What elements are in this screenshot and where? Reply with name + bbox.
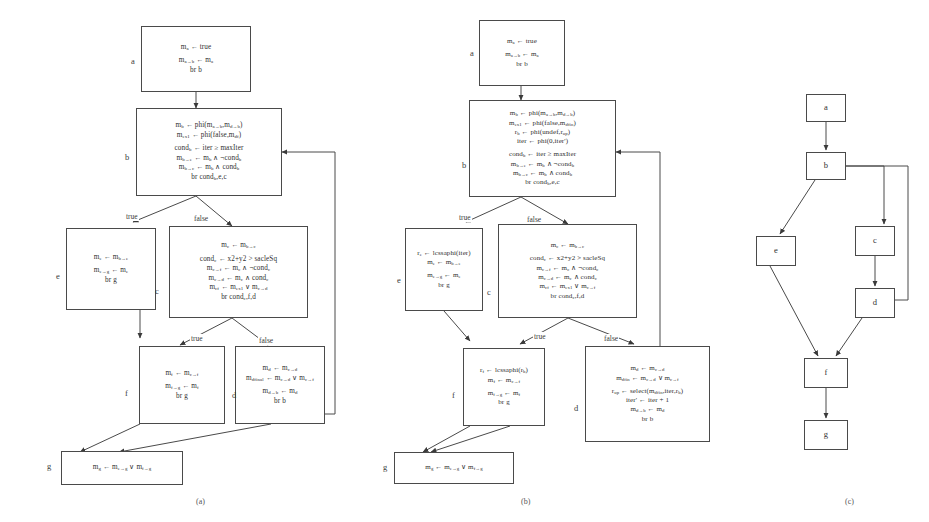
instruction-line: mdfin ← mc→d ∨ mc→f [616,374,679,383]
figure-caption: (b) [521,497,530,506]
instruction-line: me→g ← me [427,271,461,280]
block-b[interactable]: mb ← phi(ma→b,md→b)mex1 ← phi(false,mdf)… [136,108,282,196]
block-label-a: a [470,48,474,58]
cfg-node-d[interactable]: d [855,288,895,318]
block-label-b: b [125,152,129,162]
block-f[interactable]: mf ← mc→fmf→g ← mfbr g [139,346,225,424]
block-c[interactable]: mc ← mb→ccondc ← x2+y2 > sacleSqmc→f ← m… [169,226,308,318]
instruction-line: condb ← iter ≥ maxIter [509,150,576,159]
edge-label-false: false [193,214,209,223]
edge-label-true: true [125,212,139,221]
instruction-line: me→g ← me [94,266,129,276]
block-f[interactable]: rf ← lcssaphi(rb)mf ← mc→fmf→g ← mfbr g [463,348,545,426]
block-label-g: g [383,462,387,472]
block-label-b: b [462,160,466,170]
instruction-line: mdfinal ← mc→d ∨ mc→f [246,374,314,384]
instruction-line: br g [498,398,509,407]
instruction-line: md ← mc→d [263,364,298,374]
instruction-line: br condb,e,c [525,178,560,187]
cfg-node-label: f [825,367,828,378]
instruction-line: mb→e ← mb ∧ ¬condb [177,154,242,164]
instruction-line: condc ← x2+y2 > sacleSq [200,255,277,265]
block-label-e: e [56,271,60,281]
block-label-d: d [574,403,578,413]
instruction-line: br condb,e,c [191,173,226,183]
instruction-line: br g [105,276,117,286]
block-label-f: f [125,388,128,398]
cfg-node-label: d [873,297,877,308]
instruction-line: mf→g ← mf [488,389,521,398]
instruction-line: iter ← phi(0,iter') [517,137,568,146]
cfg-node-g[interactable]: g [804,420,848,450]
instruction-line: mb ← phi(ma→b,md→b) [176,121,243,131]
block-label-g: g [47,461,51,471]
instruction-line: mc ← mb→c [221,241,256,251]
instruction-line: br g [176,392,188,402]
block-e[interactable]: re ← lcssaphi(iter)me ← mb→eme→g ← mebr … [405,228,483,311]
figure-caption: (c) [845,497,854,506]
block-label-d: d [232,390,236,400]
instruction-line: ma→b ← ma [179,56,214,66]
edge-label-false: false [258,336,274,345]
instruction-line: ma ← true [181,43,212,53]
block-d[interactable]: md ← mc→dmdfin ← mc→d ∨ mc→frup ← select… [585,346,710,442]
instruction-line: mcf ← mex1 ∨ mc→f [539,282,595,291]
edge-label-true: true [533,332,547,341]
instruction-line: me ← mb→e [427,258,461,267]
block-label-f: f [452,390,455,400]
instruction-line: mex1 ← phi(false,mdf) [177,131,242,141]
edge-label-false: false [603,334,619,343]
cfg-node-b[interactable]: b [806,152,846,180]
cfg-node-label: g [824,429,828,440]
instruction-line: mf ← mc→f [165,369,198,379]
instruction-line: re ← lcssaphi(iter) [417,249,470,258]
instruction-line: br g [438,281,449,290]
instruction-line: ma→b ← ma [505,50,539,59]
edge-label-true: true [190,334,204,343]
cfg-node-label: a [824,102,828,113]
instruction-line: mb ← phi(ma→b,md→b) [510,109,575,118]
instruction-line: br b [190,66,202,76]
instruction-line: mc→d ← mc ∧ condc [208,274,268,284]
instruction-line: mg ← me→g ∨ mf→g [93,463,152,473]
figure-caption: (a) [196,497,205,506]
instruction-line: mg ← me→g ∨ mf→g [425,463,482,472]
cfg-node-f[interactable]: f [804,358,848,388]
edge-label-false: false [526,215,542,224]
cfg-node-e[interactable]: e [756,236,796,266]
block-b[interactable]: mb ← phi(ma→b,md→b)mex1 ← phi(false,mdfi… [469,100,616,197]
block-a[interactable]: ma ← truema→b ← mabr b [479,20,565,86]
instruction-line: rup ← select(mdfin,iter,rb) [612,387,683,396]
instruction-line: br b [516,60,527,69]
block-a[interactable]: ma ← truema→b ← mabr b [141,26,251,92]
block-d[interactable]: md ← mc→dmdfinal ← mc→d ∨ mc→fmd→b ← mdb… [235,346,325,424]
instruction-line: iter' ← iter + 1 [626,396,669,405]
instruction-line: mf ← mc→f [488,376,520,385]
instruction-line: condc ← x2+y2 > sacleSq [530,254,605,263]
instruction-line: rb ← phi(undef,rup) [515,128,571,137]
instruction-line: mc ← mb→c [551,241,585,250]
cfg-node-a[interactable]: a [806,94,846,122]
instruction-line: md→b ← md [262,387,297,397]
cfg-node-c[interactable]: c [855,226,895,256]
instruction-line: mex1 ← phi(false,mdfin) [509,119,576,128]
block-g[interactable]: mg ← me→g ∨ mf→g [394,452,514,484]
block-label-a: a [131,56,135,66]
block-label-c: c [155,286,159,296]
instruction-line: br condc,f,d [221,293,256,303]
instruction-line: mb→e ← mb ∧ ¬condb [511,160,574,169]
block-e[interactable]: me ← mb→eme→g ← mebr g [66,228,156,310]
block-c[interactable]: mc ← mb→ccondc ← x2+y2 > sacleSqmc→f ← m… [498,224,637,318]
instruction-line: rf ← lcssaphi(rb) [480,366,528,375]
instruction-line: mc→d ← mc ∧ condc [538,273,597,282]
block-label-c: c [487,287,491,297]
cfg-node-label: c [873,235,877,246]
block-g[interactable]: mg ← me→g ∨ mf→g [61,451,183,485]
instruction-line: ma ← true [507,37,537,46]
block-label-e: e [397,275,401,285]
edge-label-true: true [458,213,472,222]
instruction-line: mf→g ← mf [165,382,198,392]
cfg-node-label: e [774,245,778,256]
figure-canvas: ma ← truema→b ← mabr b mb ← phi(ma→b,md→… [0,0,929,522]
instruction-line: mc→f ← mc ∧ ¬condc [537,264,599,273]
